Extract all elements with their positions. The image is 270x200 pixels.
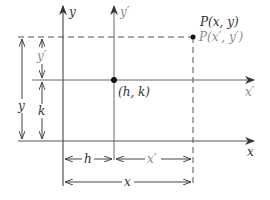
new-origin-label: (h, k)	[118, 85, 150, 99]
dimension-k-label: k	[38, 104, 45, 118]
new-origin-point	[111, 77, 117, 83]
diagram-svg: y y′ x′ x (h, k) P(x, y) P(x′, y′) y y′ …	[0, 0, 270, 200]
y-prime-axis-label: y′	[119, 5, 130, 19]
dimension-y-prime-label: y′	[36, 49, 47, 63]
dimension-h-label: h	[84, 152, 92, 166]
y-axis-label: y	[68, 5, 76, 19]
point-p	[191, 35, 196, 40]
point-p-label: P(x, y)	[199, 15, 239, 29]
dimension-x-prime-label: x′	[147, 152, 157, 166]
dimension-x-label: x	[124, 175, 131, 189]
dimension-y-label: y	[17, 99, 25, 113]
point-p-prime-label: P(x′, y′)	[198, 30, 243, 44]
x-prime-axis-label: x′	[245, 85, 255, 99]
x-axis-label: x	[247, 145, 254, 159]
translation-of-axes-diagram: y y′ x′ x (h, k) P(x, y) P(x′, y′) y y′ …	[0, 0, 270, 200]
